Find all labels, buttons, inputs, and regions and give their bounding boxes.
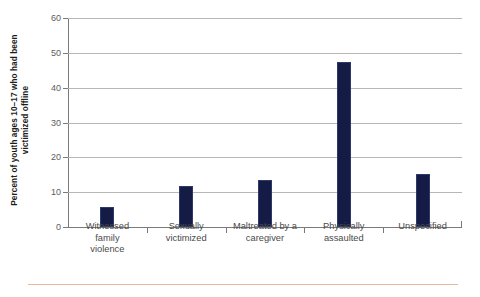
x-axis-label-3: Physically assaulted [304, 221, 383, 244]
y-tick-label-60: 60 [51, 13, 61, 23]
bar-2 [258, 180, 272, 227]
y-tick-mark-20 [63, 157, 68, 158]
gridline-50 [68, 53, 462, 54]
x-axis-label-4: Unspecified [383, 221, 462, 233]
x-axis-label-1: Sexually victimized [147, 221, 226, 244]
y-tick-mark-60 [63, 18, 68, 19]
x-axis-label-0: Witnessed family violence [68, 221, 147, 256]
y-tick-label-30: 30 [51, 118, 61, 128]
y-tick-label-10: 10 [51, 187, 61, 197]
y-tick-mark-30 [63, 123, 68, 124]
y-tick-label-40: 40 [51, 83, 61, 93]
y-tick-label-0: 0 [56, 222, 61, 232]
gridline-40 [68, 88, 462, 89]
gridline-60 [68, 18, 462, 19]
y-tick-mark-50 [63, 53, 68, 54]
y-tick-mark-40 [63, 88, 68, 89]
y-axis-title: Percent of youth ages 10–17 who had been… [0, 0, 40, 240]
x-axis-label-2: Maltreated by a caregiver [226, 221, 305, 244]
bar-4 [416, 174, 430, 227]
gridline-30 [68, 123, 462, 124]
y-axis-title-line-1: Percent of youth ages 10–17 who had been [9, 34, 20, 205]
y-tick-label-50: 50 [51, 48, 61, 58]
y-tick-label-20: 20 [51, 152, 61, 162]
chart-figure: Percent of youth ages 10–17 who had been… [0, 0, 480, 297]
gridline-20 [68, 157, 462, 158]
bar-3 [337, 62, 351, 227]
y-axis-title-line-2: victimized offline [20, 34, 31, 205]
plot-area: 0102030405060 [68, 18, 462, 227]
y-tick-mark-10 [63, 192, 68, 193]
bottom-accent-rule [28, 284, 458, 285]
